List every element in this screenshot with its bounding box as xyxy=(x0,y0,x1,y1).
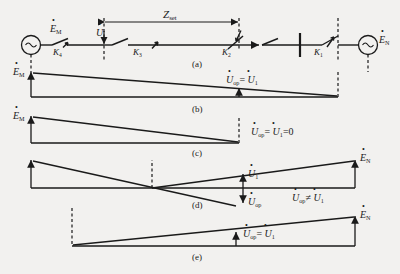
panel-d-falling-profile xyxy=(33,161,236,206)
phasor-dot-Uop-c: • xyxy=(253,119,256,128)
switch-right-blade xyxy=(262,39,278,46)
label-zset: Zset xyxy=(163,8,177,21)
phasor-dot-U: • xyxy=(98,20,101,29)
uop-d-sub: op xyxy=(255,201,261,208)
panel-c-voltage-profile xyxy=(33,117,238,142)
label-EN-panel-e: • EN xyxy=(360,209,371,221)
phasor-dot-U1-d: • xyxy=(250,161,253,170)
panel-c-graph xyxy=(31,116,239,143)
label-Uop-panel-d: • Uop xyxy=(248,196,261,208)
EN-d-sub: N xyxy=(366,157,370,164)
phasor-dot-EN-source: • xyxy=(381,27,384,36)
panel-e-graph xyxy=(72,208,355,246)
label-relation-panel-c: • Uop= • U1=0 xyxy=(251,126,294,138)
panel-b-graph xyxy=(31,70,338,97)
k3-sub: 3 xyxy=(139,52,142,58)
u1-e-sub: 1 xyxy=(272,233,275,240)
u1-d2-sub: 1 xyxy=(321,197,324,204)
phasor-dot-Uop-b: • xyxy=(228,67,231,76)
u1-b-sub: 1 xyxy=(255,79,258,86)
zset-sub: set xyxy=(169,14,177,21)
EM-b-sub: M xyxy=(19,71,25,78)
panel-letter-e: (e) xyxy=(192,252,202,262)
phasor-dot-U1-c: • xyxy=(272,119,275,128)
zero-c: =0 xyxy=(283,126,294,137)
phasor-dot-Uop-e: • xyxy=(245,221,248,230)
phasor-dot-EN-d: • xyxy=(362,145,365,154)
panel-letter-c: (c) xyxy=(192,148,202,158)
phasor-dot-U1-b: • xyxy=(247,67,250,76)
phasor-dot-Uop-d: • xyxy=(250,189,253,198)
phasor-dot-EM-c: • xyxy=(15,103,18,112)
label-switch-k4: K4 xyxy=(53,47,62,58)
panel-b-voltage-profile xyxy=(33,73,337,96)
phasor-dot-U1-e: • xyxy=(264,221,267,230)
switch-k3-blade xyxy=(112,39,128,46)
label-EN-source: • EN xyxy=(379,34,390,46)
label-U-measure: • U xyxy=(96,27,103,38)
panel-letter-d: (d) xyxy=(192,200,203,210)
panel-letter-b: (b) xyxy=(192,104,203,114)
label-switch-k2: K2 xyxy=(222,47,231,58)
label-relation-panel-b: • Uop= • U1 xyxy=(226,74,258,86)
EN-source-sub: N xyxy=(385,39,389,46)
EN-e-sub: N xyxy=(366,214,370,221)
k2-sub: 2 xyxy=(228,52,231,58)
protection-diagram-canvas xyxy=(0,0,400,274)
phasor-dot-U1-d2: • xyxy=(313,185,316,194)
label-switch-k1: K1 xyxy=(314,47,323,58)
phasor-dot-EM-source: • xyxy=(52,16,55,25)
panel-e-voltage-profile xyxy=(73,217,354,245)
label-EM-source: • EM xyxy=(50,23,62,35)
EM-source-sub: M xyxy=(56,28,62,35)
EM-c-sub: M xyxy=(19,115,25,122)
label-EN-panel-d: • EN xyxy=(360,152,371,164)
label-switch-k3: K3 xyxy=(133,47,142,58)
label-EM-panel-b: • EM xyxy=(13,66,25,78)
label-EM-panel-c: • EM xyxy=(13,110,25,122)
fault-arrow-k4 xyxy=(63,43,68,48)
phasor-dot-EM-b: • xyxy=(15,59,18,68)
phasor-dot-Uop-d2: • xyxy=(294,185,297,194)
panel-letter-a: (a) xyxy=(192,59,202,69)
source-right-sine xyxy=(363,43,374,47)
label-relation-panel-d: • Uop≠ • U1 xyxy=(292,192,324,204)
k4-sub: 4 xyxy=(59,52,62,58)
u1-d-sub: 1 xyxy=(255,173,258,180)
source-left-sine xyxy=(26,43,37,47)
k1-sub: 1 xyxy=(320,52,323,58)
phasor-dot-EN-e: • xyxy=(362,202,365,211)
label-U1-panel-d: • U1 xyxy=(248,168,258,180)
label-relation-panel-e: • Uop= • U1 xyxy=(243,228,275,240)
